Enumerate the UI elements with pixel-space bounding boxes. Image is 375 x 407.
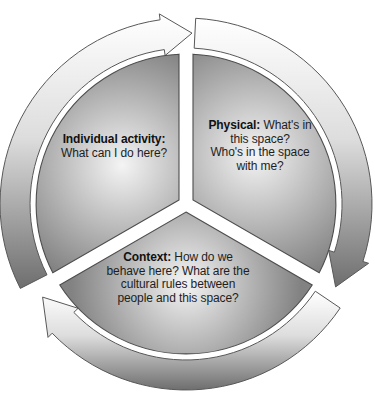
label-line: this space? xyxy=(180,133,340,147)
cycle-diagram: Individual activity: What can I do here?… xyxy=(0,0,375,407)
segment-label-context: Context: How do we behave here? What are… xyxy=(88,251,268,305)
segment-label-individual-activity: Individual activity: What can I do here? xyxy=(34,133,194,160)
label-line: people and this space? xyxy=(88,292,268,306)
label-line: cultural rules between xyxy=(88,278,268,292)
label-line: Physical: What's in xyxy=(180,119,340,133)
label-line: Who's in the space xyxy=(180,146,340,160)
label-line: Context: How do we xyxy=(88,251,268,265)
label-line: behave here? What are the xyxy=(88,265,268,279)
segment-label-physical: Physical: What's in this space? Who's in… xyxy=(180,119,340,173)
label-line: Individual activity: xyxy=(34,133,194,147)
label-line: with me? xyxy=(180,160,340,174)
label-line: What can I do here? xyxy=(34,147,194,161)
cycle-diagram-graphic xyxy=(0,0,375,407)
